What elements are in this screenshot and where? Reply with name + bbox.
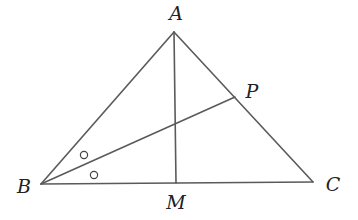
segment-ab [41, 32, 174, 184]
label-b: B [16, 175, 31, 197]
geometry-diagram: A B C M P [0, 0, 358, 220]
segment-bp [41, 97, 235, 184]
segment-am [174, 32, 176, 183]
label-a: A [167, 2, 183, 24]
label-c: C [326, 173, 341, 195]
angle-mark-abp-circle-icon [80, 151, 87, 158]
segment-ac [174, 32, 313, 182]
segment-bc [41, 182, 313, 184]
label-p: P [245, 80, 260, 102]
label-m: M [165, 191, 186, 213]
angle-mark-pbc-circle-icon [90, 171, 97, 178]
